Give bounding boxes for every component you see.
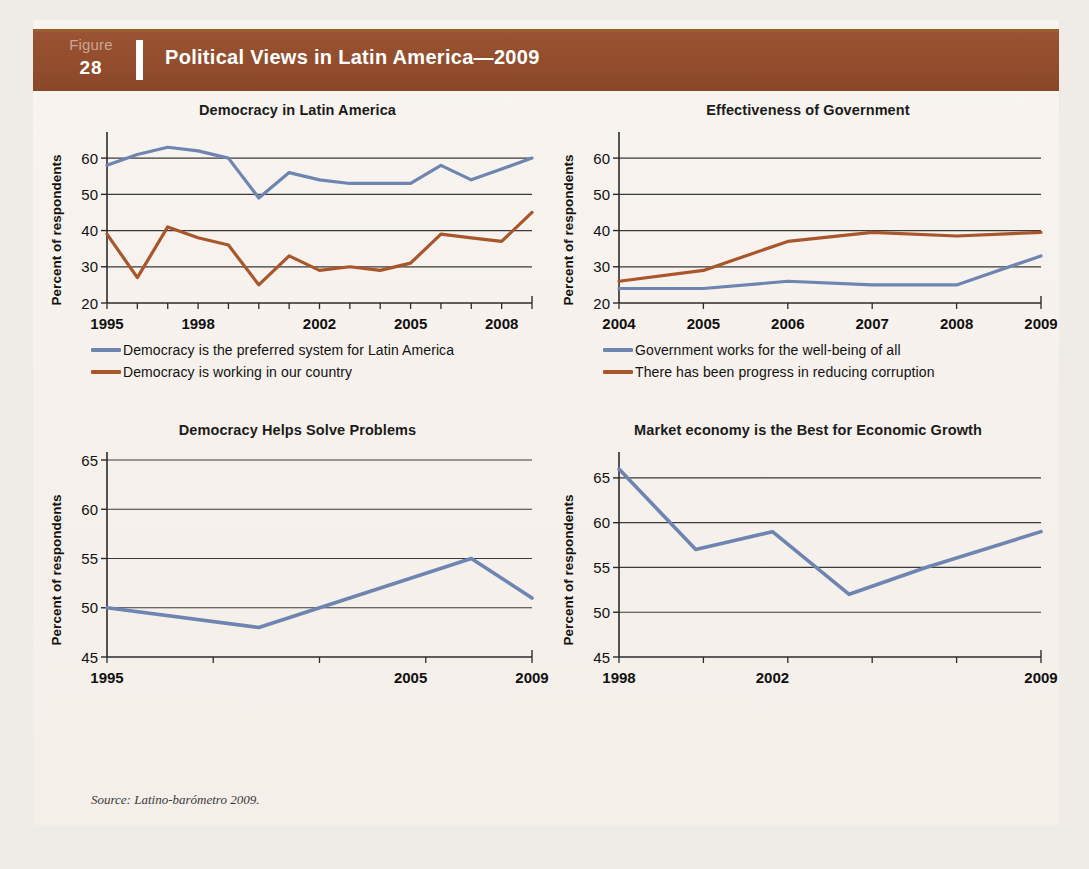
svg-text:65: 65 <box>593 469 610 486</box>
legend-swatch-brown <box>91 370 121 374</box>
chart-title: Effectiveness of Government <box>557 102 1059 118</box>
legend-item: Democracy is the preferred system for La… <box>91 339 550 361</box>
svg-text:40: 40 <box>593 222 610 239</box>
legend-item: There has been progress in reducing corr… <box>603 361 1059 383</box>
plot-area: Percent of respondents 20304050601995199… <box>45 122 550 337</box>
svg-text:1995: 1995 <box>90 669 123 686</box>
svg-text:2002: 2002 <box>756 669 789 686</box>
figure-header-bar: Figure 28 Political Views in Latin Ameri… <box>33 29 1059 91</box>
chart-panel-market-economy-best-for-growth: Market economy is the Best for Economic … <box>557 422 1059 712</box>
chart-svg: 2030405060200420052006200720082009 <box>557 122 1059 337</box>
svg-text:20: 20 <box>593 295 610 312</box>
chart-legend: Democracy is the preferred system for La… <box>45 339 550 383</box>
chart-panel-effectiveness-of-government: Effectiveness of Government Percent of r… <box>557 102 1059 417</box>
svg-text:55: 55 <box>593 559 610 576</box>
svg-text:1995: 1995 <box>90 315 123 332</box>
chart-legend: Government works for the well-being of a… <box>557 339 1059 383</box>
svg-text:2009: 2009 <box>1024 315 1057 332</box>
plot-area: Percent of respondents 45505560651998200… <box>557 442 1059 697</box>
chart-title: Democracy Helps Solve Problems <box>45 422 550 438</box>
figure-title: Political Views in Latin America—2009 <box>165 46 540 69</box>
svg-text:60: 60 <box>81 150 98 167</box>
svg-text:1998: 1998 <box>181 315 214 332</box>
legend-swatch-brown <box>603 370 633 374</box>
svg-text:2008: 2008 <box>485 315 518 332</box>
chart-panel-democracy-in-latin-america: Democracy in Latin America Percent of re… <box>45 102 550 417</box>
legend-label: Government works for the well-being of a… <box>635 342 901 358</box>
y-axis-label: Percent of respondents <box>557 442 579 697</box>
svg-text:60: 60 <box>593 150 610 167</box>
svg-text:2005: 2005 <box>687 315 720 332</box>
svg-text:60: 60 <box>81 501 98 518</box>
plot-area: Percent of respondents 45505560651995200… <box>45 442 550 697</box>
chart-title: Market economy is the Best for Economic … <box>557 422 1059 438</box>
svg-text:2002: 2002 <box>303 315 336 332</box>
y-axis-label: Percent of respondents <box>45 442 67 697</box>
svg-text:30: 30 <box>81 258 98 275</box>
charts-grid: Democracy in Latin America Percent of re… <box>33 102 1059 762</box>
figure-number-block: Figure 28 <box>55 33 127 89</box>
svg-text:2009: 2009 <box>1024 669 1057 686</box>
legend-item: Democracy is working in our country <box>91 361 550 383</box>
svg-text:2005: 2005 <box>394 669 427 686</box>
header-divider-rule <box>136 40 143 80</box>
svg-text:40: 40 <box>81 222 98 239</box>
svg-text:2004: 2004 <box>602 315 636 332</box>
svg-text:60: 60 <box>593 514 610 531</box>
svg-text:50: 50 <box>81 599 98 616</box>
source-note: Source: Latino-barómetro 2009. <box>91 792 259 808</box>
y-axis-label: Percent of respondents <box>45 122 67 337</box>
legend-label: Democracy is the preferred system for La… <box>123 342 454 358</box>
legend-swatch-blue <box>603 348 633 352</box>
chart-title: Democracy in Latin America <box>45 102 550 118</box>
svg-text:1998: 1998 <box>602 669 635 686</box>
svg-text:45: 45 <box>81 649 98 666</box>
svg-text:2008: 2008 <box>940 315 973 332</box>
y-axis-label: Percent of respondents <box>557 122 579 337</box>
svg-text:45: 45 <box>593 649 610 666</box>
figure-sheet: Figure 28 Political Views in Latin Ameri… <box>33 20 1059 825</box>
svg-text:2009: 2009 <box>515 669 548 686</box>
legend-swatch-blue <box>91 348 121 352</box>
chart-panel-democracy-helps-solve-problems: Democracy Helps Solve Problems Percent o… <box>45 422 550 712</box>
plot-area: Percent of respondents 20304050602004200… <box>557 122 1059 337</box>
page-canvas: Figure 28 Political Views in Latin Ameri… <box>0 0 1089 869</box>
svg-text:30: 30 <box>593 258 610 275</box>
svg-text:2005: 2005 <box>394 315 427 332</box>
legend-label: Democracy is working in our country <box>123 364 352 380</box>
figure-number: 28 <box>55 58 127 77</box>
svg-text:20: 20 <box>81 295 98 312</box>
legend-label: There has been progress in reducing corr… <box>635 364 935 380</box>
chart-svg: 4550556065199520052009 <box>45 442 550 697</box>
svg-text:50: 50 <box>593 604 610 621</box>
svg-text:50: 50 <box>81 186 98 203</box>
figure-label-word: Figure <box>55 37 127 52</box>
chart-svg: 4550556065199820022009 <box>557 442 1059 697</box>
svg-text:65: 65 <box>81 452 98 469</box>
legend-item: Government works for the well-being of a… <box>603 339 1059 361</box>
svg-text:2007: 2007 <box>856 315 889 332</box>
svg-text:2006: 2006 <box>771 315 804 332</box>
svg-text:55: 55 <box>81 550 98 567</box>
chart-svg: 203040506019951998200220052008 <box>45 122 550 337</box>
svg-text:50: 50 <box>593 186 610 203</box>
